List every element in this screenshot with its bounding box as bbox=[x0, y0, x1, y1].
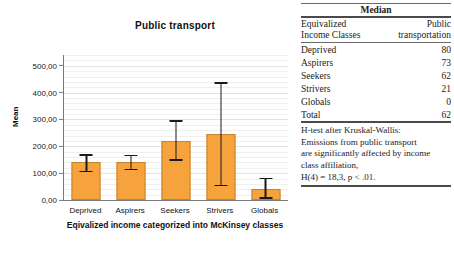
table-cell-class: Deprived bbox=[301, 43, 388, 56]
error-bar-stem bbox=[175, 120, 176, 160]
median-table: Equivalized Income Classes Public transp… bbox=[301, 18, 451, 43]
error-bar-cap-top bbox=[125, 155, 138, 156]
error-bar bbox=[214, 82, 227, 186]
table-cell-class: Total bbox=[301, 108, 388, 121]
y-axis-tick-label: 400,00 bbox=[33, 88, 64, 97]
error-bar-cap-bottom bbox=[169, 159, 182, 160]
table-note-line: H(4) = 18,3, p < .01. bbox=[301, 172, 451, 184]
table-row: Seekers62 bbox=[301, 69, 451, 82]
error-bar bbox=[169, 120, 182, 160]
header-public-transportation: Public transportation bbox=[388, 18, 451, 43]
bar-group bbox=[109, 55, 154, 200]
y-axis-title: Mean bbox=[11, 107, 20, 127]
table-cell-class: Aspirers bbox=[301, 56, 388, 69]
table-note-line: class affiliation, bbox=[301, 160, 451, 172]
error-bar bbox=[259, 178, 272, 199]
table-note-line: are significantly affected by income bbox=[301, 148, 451, 160]
median-table-body: Deprived80Aspirers73Seekers62Strivers21G… bbox=[301, 43, 451, 121]
bar-group bbox=[64, 55, 109, 200]
table-header-row: Equivalized Income Classes Public transp… bbox=[301, 18, 451, 43]
error-bar-cap-bottom bbox=[125, 169, 138, 170]
table-bottom-rule bbox=[301, 185, 451, 187]
table-caption: Median bbox=[301, 4, 451, 16]
error-bar-cap-top bbox=[80, 154, 93, 155]
table-cell-class: Globals bbox=[301, 95, 388, 108]
table-cell-value: 62 bbox=[388, 108, 451, 121]
x-axis-tick-label: Deprived bbox=[63, 206, 108, 215]
error-bar-cap-bottom bbox=[259, 197, 272, 198]
bar-group bbox=[198, 55, 243, 200]
error-bar-stem bbox=[265, 178, 266, 199]
error-bar-stem bbox=[220, 82, 221, 186]
y-axis-tick-label: 200,00 bbox=[33, 142, 64, 151]
error-bar bbox=[80, 154, 93, 172]
table-cell-value: 80 bbox=[388, 43, 451, 56]
bar-group bbox=[154, 55, 199, 200]
table-note-line: H-test after Kruskal-Wallis: bbox=[301, 125, 451, 137]
table-cell-value: 0 bbox=[388, 95, 451, 108]
median-table-panel: Median Equivalized Income Classes Public… bbox=[301, 3, 451, 187]
y-axis-tick-label: 100,00 bbox=[33, 169, 64, 178]
x-axis-tick-label: Seekers bbox=[153, 206, 198, 215]
y-axis-tick-label: 500,00 bbox=[33, 61, 64, 70]
error-bar-cap-bottom bbox=[214, 185, 227, 186]
x-axis-tick-label: Globals bbox=[242, 206, 287, 215]
table-row: Strivers21 bbox=[301, 82, 451, 95]
header-income-classes-line1: Equivalized bbox=[301, 19, 346, 29]
header-public-transportation-line1: Public bbox=[427, 19, 451, 29]
error-bar bbox=[125, 155, 138, 171]
header-income-classes: Equivalized Income Classes bbox=[301, 18, 388, 43]
y-axis-tick-label: 300,00 bbox=[33, 115, 64, 124]
table-note-line: Emissions from public transport bbox=[301, 137, 451, 149]
error-bar-stem bbox=[86, 154, 87, 172]
table-cell-class: Seekers bbox=[301, 69, 388, 82]
bar-group bbox=[243, 55, 288, 200]
x-axis-tick-label: Strivers bbox=[197, 206, 242, 215]
header-public-transportation-line2: transportation bbox=[398, 30, 451, 40]
table-row: Aspirers73 bbox=[301, 56, 451, 69]
bar-chart-panel: Public transport Mean 0,00100,00200,0030… bbox=[0, 0, 296, 253]
error-bar-cap-bottom bbox=[80, 171, 93, 172]
header-income-classes-line2: Income Classes bbox=[301, 30, 360, 40]
error-bar-cap-top bbox=[214, 82, 227, 83]
bar-series bbox=[64, 55, 288, 200]
table-cell-value: 62 bbox=[388, 69, 451, 82]
error-bar-cap-top bbox=[169, 120, 182, 121]
x-axis-title: Eqivalized income categorized into McKin… bbox=[55, 220, 295, 230]
figure-public-transport: Public transport Mean 0,00100,00200,0030… bbox=[0, 0, 454, 253]
table-cell-class: Strivers bbox=[301, 82, 388, 95]
chart-title: Public transport bbox=[62, 20, 288, 31]
table-row: Globals0 bbox=[301, 95, 451, 108]
table-row: Total62 bbox=[301, 108, 451, 121]
y-axis-tick-label: 0,00 bbox=[41, 196, 64, 205]
plot-area: 0,00100,00200,00300,00400,00500,00 bbox=[63, 55, 288, 201]
table-cell-value: 73 bbox=[388, 56, 451, 69]
table-note: H-test after Kruskal-Wallis:Emissions fr… bbox=[301, 123, 451, 183]
error-bar-cap-top bbox=[259, 178, 272, 179]
table-cell-value: 21 bbox=[388, 82, 451, 95]
x-axis-tick-label: Aspirers bbox=[108, 206, 153, 215]
table-row: Deprived80 bbox=[301, 43, 451, 56]
